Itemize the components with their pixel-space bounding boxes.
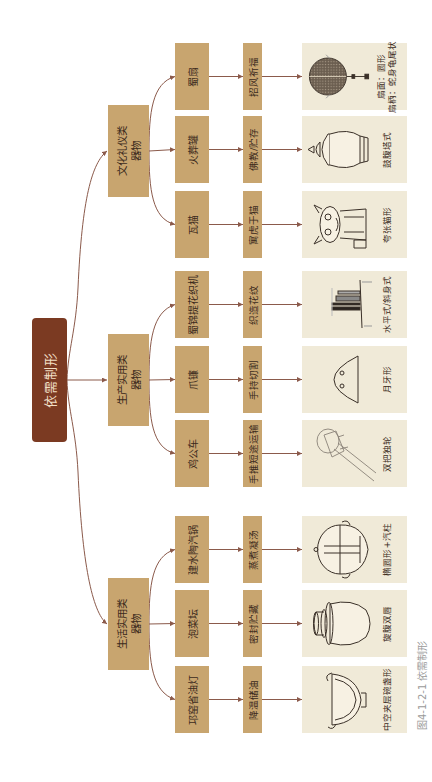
item-shape: 中空夹层碗盏形 — [382, 668, 393, 731]
item-function: 降温储油 — [246, 680, 260, 720]
item-illustration-panel: 椭圆形+汽柱 — [302, 516, 407, 583]
item-name: 瓦猫 — [185, 215, 200, 235]
item-function: 寓虎于猫 — [246, 205, 260, 245]
item-name: 蜀锦提花织机 — [185, 275, 200, 335]
wheelbarrow-illustration — [302, 420, 382, 487]
category-daily-use: 生活实用类 器物 — [108, 578, 149, 670]
category-label-line2: 器物 — [129, 141, 143, 161]
item-shape-line2: 扇柄：蛇身龟尾状 — [387, 41, 398, 113]
item-function: 蒸煮凝汤 — [246, 530, 260, 570]
category-label-line1: 生活实用类 — [115, 599, 129, 649]
category-label-line2: 器物 — [129, 614, 143, 634]
round-fan-illustration — [302, 43, 376, 110]
item-shape: 鼓腹塔式 — [382, 132, 393, 168]
cremation-urn-illustration — [302, 116, 382, 183]
item-illustration-panel: 中空夹层碗盏形 — [302, 666, 407, 733]
item-shape: 水平式/斜身式 — [382, 276, 393, 333]
item-name: 爪镰 — [185, 370, 200, 390]
item-shape: 椭圆形+汽柱 — [382, 523, 393, 575]
item-function-box: 手持切割 — [243, 346, 262, 413]
item-illustration-panel: 水平式/斜身式 — [302, 271, 407, 338]
item-name: 泡菜坛 — [185, 609, 200, 639]
item-function-box: 寓虎于猫 — [243, 191, 262, 258]
item-illustration-panel: 扇面：圆形 扇柄：蛇身龟尾状 — [302, 43, 407, 110]
item-illustration-panel: 鼓腹塔式 — [302, 116, 407, 183]
root-node: 依需制形 — [32, 318, 67, 442]
item-function-box: 密封贮藏 — [243, 590, 262, 657]
item-shape: 月牙形 — [382, 366, 393, 393]
item-name: 火葬罐 — [185, 135, 200, 165]
item-function: 手持切割 — [246, 360, 260, 400]
item-name-box: 鸡公车 — [175, 420, 209, 487]
category-label-line2: 器物 — [129, 370, 143, 390]
tile-cat-illustration — [302, 191, 382, 258]
item-function: 手推短途运输 — [246, 424, 260, 484]
item-name-box: 建水陶汽锅 — [175, 516, 209, 583]
root-label: 依需制形 — [40, 352, 59, 408]
category-label-line1: 文化礼仪类 — [115, 126, 129, 176]
pickle-jar-illustration — [302, 590, 382, 657]
item-function-box: 降温储油 — [243, 666, 262, 733]
item-illustration-panel: 旋腹双唇 — [302, 590, 407, 657]
item-illustration-panel: 夸张猫形 — [302, 191, 407, 258]
item-name: 蜀扇 — [185, 67, 200, 87]
item-name-box: 火葬罐 — [175, 116, 209, 183]
steam-pot-illustration — [302, 516, 382, 583]
item-shape: 夸张猫形 — [382, 207, 393, 243]
item-illustration-panel: 双把独轮 — [302, 420, 407, 487]
item-function: 织造花纹 — [246, 285, 260, 325]
item-shape: 双把独轮 — [382, 436, 393, 472]
category-production: 生产实用类 器物 — [108, 334, 149, 426]
item-function-box: 手推短途运输 — [243, 420, 262, 487]
item-name-box: 瓦猫 — [175, 191, 209, 258]
category-cultural-ritual: 文化礼仪类 器物 — [108, 105, 149, 197]
diagram-canvas: 依需制形 生活实用类 器物 生产实用类 器物 文化礼仪类 器物 邛窑省油灯 降温… — [0, 0, 432, 782]
figure-caption: 图4-1-2-1 依需制形 — [414, 641, 429, 730]
item-illustration-panel: 月牙形 — [302, 346, 407, 413]
item-function-box: 蒸煮凝汤 — [243, 516, 262, 583]
item-function: 佛教/贮存 — [246, 128, 260, 171]
item-name-box: 泡菜坛 — [175, 590, 209, 657]
item-shape: 旋腹双唇 — [382, 606, 393, 642]
item-function: 密封贮藏 — [246, 604, 260, 644]
item-function: 招风祈福 — [246, 57, 260, 97]
item-name-box: 蜀扇 — [175, 43, 209, 110]
item-name-box: 爪镰 — [175, 346, 209, 413]
item-name-box: 邛窑省油灯 — [175, 666, 209, 733]
item-function-box: 佛教/贮存 — [243, 116, 262, 183]
item-shape: 扇面：圆形 — [376, 54, 387, 99]
loom-illustration — [302, 271, 382, 338]
item-function-box: 织造花纹 — [243, 271, 262, 338]
category-label-line1: 生产实用类 — [115, 355, 129, 405]
item-function-box: 招风祈福 — [243, 43, 262, 110]
item-name-box: 蜀锦提花织机 — [175, 271, 209, 338]
sickle-illustration — [302, 346, 382, 413]
oil-lamp-illustration — [302, 666, 382, 733]
item-name: 鸡公车 — [185, 439, 200, 469]
item-name: 建水陶汽锅 — [185, 525, 200, 575]
item-name: 邛窑省油灯 — [185, 675, 200, 725]
